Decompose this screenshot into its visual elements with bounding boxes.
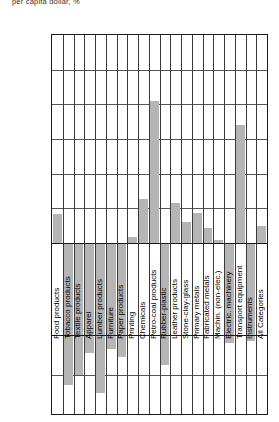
- bar-negative[interactable]: [161, 335, 170, 365]
- bar-column[interactable]: [106, 35, 117, 414]
- plot-area: [51, 34, 268, 415]
- x-axis-category-label: Textile products: [74, 283, 82, 339]
- x-axis-category-label: Primary metals: [193, 286, 201, 339]
- bar-column[interactable]: [127, 35, 138, 414]
- x-axis-category-label: Chemicals: [139, 302, 147, 339]
- bar-column[interactable]: [170, 35, 181, 414]
- bar-column[interactable]: [138, 35, 149, 414]
- x-axis-category-label: Tobacco products: [64, 276, 72, 339]
- bar-positive[interactable]: [171, 203, 180, 243]
- bar-column[interactable]: [84, 35, 95, 414]
- bar-positive[interactable]: [257, 226, 266, 243]
- bar-column[interactable]: [235, 35, 246, 414]
- x-axis-category-label: Leather products: [171, 279, 179, 339]
- x-axis-category-label: Paper products: [117, 285, 125, 339]
- bar-column[interactable]: [203, 35, 214, 414]
- bar-positive[interactable]: [182, 222, 191, 243]
- bar-column[interactable]: [117, 35, 128, 414]
- bar-column[interactable]: [63, 35, 74, 414]
- bar-positive[interactable]: [236, 125, 245, 243]
- bar-column[interactable]: [224, 35, 235, 414]
- x-axis-category-label: Rubber-plastic: [160, 287, 168, 339]
- zero-baseline-upper: [52, 243, 267, 244]
- x-axis-category-label: Electric. machinery: [225, 271, 233, 339]
- bar-positive[interactable]: [150, 101, 159, 243]
- bar-column[interactable]: [160, 35, 171, 414]
- x-axis-category-label: Apparel: [85, 311, 93, 339]
- bar-column[interactable]: [74, 35, 85, 414]
- bar-column[interactable]: [149, 35, 160, 414]
- x-axis-category-label: Fabricated metals: [203, 275, 211, 339]
- x-axis-category-label: Printing: [128, 312, 136, 339]
- bar-positive[interactable]: [193, 213, 202, 243]
- x-axis-category-label: All Categories: [257, 289, 265, 339]
- bar-column[interactable]: [52, 35, 63, 414]
- bar-column[interactable]: [181, 35, 192, 414]
- chart-note: per capita dollar, %: [12, 0, 80, 6]
- bar-negative[interactable]: [75, 335, 84, 375]
- x-axis-category-label: Petro-coal products: [150, 270, 158, 339]
- x-axis-category-label: Lumber products: [96, 279, 104, 339]
- x-axis-category-label: Stone-clay-glass: [182, 280, 190, 339]
- bar-column[interactable]: [192, 35, 203, 414]
- x-axis-category-label: Food products: [53, 288, 61, 339]
- bar-positive[interactable]: [139, 199, 148, 243]
- x-axis-category-label: Machin. (non-elec.): [214, 271, 222, 339]
- bar-column[interactable]: [256, 35, 267, 414]
- bar-positive[interactable]: [53, 214, 62, 243]
- bar-column[interactable]: [95, 35, 106, 414]
- bar-column[interactable]: [213, 35, 224, 414]
- bar-column[interactable]: [246, 35, 257, 414]
- x-axis-category-label: Instruments: [246, 297, 254, 339]
- x-axis-category-label: Furniture: [107, 307, 115, 339]
- bar-positive[interactable]: [204, 228, 213, 243]
- x-axis-category-label: Transport equipment: [236, 265, 244, 339]
- bar-negative[interactable]: [64, 335, 73, 385]
- bar-negative[interactable]: [96, 335, 105, 393]
